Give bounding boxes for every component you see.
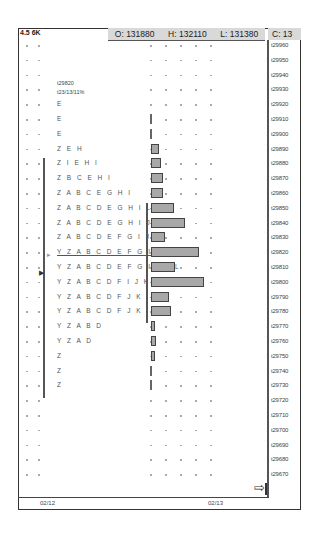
grid-dot <box>210 45 212 47</box>
grid-dot <box>195 104 197 106</box>
grid-dot <box>26 267 28 269</box>
volume-bar <box>151 351 155 361</box>
close-marker-icon: ▶ <box>39 269 44 277</box>
grid-dot <box>195 326 197 328</box>
profile-stats-label: t23/13/11% <box>57 89 84 95</box>
grid-dot <box>165 341 167 343</box>
grid-dot <box>210 237 212 239</box>
grid-dot <box>26 341 28 343</box>
grid-dot <box>165 326 167 328</box>
grid-dot <box>38 445 40 447</box>
grid-dot <box>38 89 40 91</box>
grid-dot <box>26 311 28 313</box>
grid-dot <box>165 385 167 387</box>
grid-dot <box>195 75 197 77</box>
grid-dot <box>195 223 197 225</box>
date-label: 02/13 <box>208 500 223 506</box>
grid-dot <box>38 474 40 476</box>
tpo-row: Z <box>57 367 63 374</box>
price-tick-label: t29690 <box>271 442 288 448</box>
low-value: L: 131380 <box>220 29 258 39</box>
grid-dot <box>26 297 28 299</box>
date-label: 02/12 <box>40 500 55 506</box>
grid-dot <box>195 400 197 402</box>
grid-dot <box>195 163 197 165</box>
grid-dot <box>210 311 212 313</box>
volume-bar <box>151 232 165 242</box>
grid-dot <box>165 178 167 180</box>
tpo-row: Z A B C E G H I <box>57 189 132 196</box>
grid-dot <box>195 45 197 47</box>
time-axis-line <box>18 497 269 498</box>
tpo-row: E <box>57 100 63 107</box>
grid-dot <box>38 193 40 195</box>
grid-dot <box>165 400 167 402</box>
grid-dot <box>26 223 28 225</box>
price-tick-label: t29830 <box>271 234 288 240</box>
price-tick-label: t29670 <box>271 471 288 477</box>
grid-dot <box>195 297 197 299</box>
price-tick-label: t29770 <box>271 323 288 329</box>
grid-dot <box>38 400 40 402</box>
volume-bar <box>151 173 163 183</box>
grid-dot <box>195 267 197 269</box>
value-area-line <box>43 158 45 398</box>
grid-dot <box>150 104 152 106</box>
grid-dot <box>38 252 40 254</box>
grid-dot <box>38 149 40 151</box>
price-tick-label: t29740 <box>271 368 288 374</box>
price-tick-label: t29900 <box>271 131 288 137</box>
grid-dot <box>165 474 167 476</box>
ohlc-header: O: 131880 H: 132110 L: 131380 <box>108 28 265 41</box>
volume-bar <box>151 292 169 302</box>
grid-dot <box>38 385 40 387</box>
tpo-row: Z A B C D E F G I J L <box>57 233 160 240</box>
grid-dot <box>210 400 212 402</box>
grid-dot <box>180 149 182 151</box>
volume-bar <box>151 158 161 168</box>
grid-dot <box>195 89 197 91</box>
price-tick-label: t29810 <box>271 264 288 270</box>
tpo-row: Z <box>57 352 63 359</box>
grid-dot <box>38 459 40 461</box>
grid-dot <box>26 89 28 91</box>
price-tick-label: t29880 <box>271 160 288 166</box>
grid-dot <box>150 474 152 476</box>
grid-dot <box>210 267 212 269</box>
grid-dot <box>195 474 197 476</box>
grid-dot <box>180 415 182 417</box>
grid-dot <box>38 119 40 121</box>
price-tick-label: t29700 <box>271 427 288 433</box>
price-tick-label: t29950 <box>271 57 288 63</box>
scroll-right-icon[interactable]: ⇨ <box>254 481 267 495</box>
tpo-row: Y Z A B C D F J K <box>57 293 143 300</box>
grid-dot <box>210 75 212 77</box>
volume-bar <box>151 188 163 198</box>
grid-dot <box>210 326 212 328</box>
grid-dot <box>150 415 152 417</box>
volume-bar <box>150 380 152 390</box>
grid-dot <box>38 104 40 106</box>
grid-dot <box>26 415 28 417</box>
close-value: C: 13 <box>268 28 301 40</box>
grid-dot <box>165 237 167 239</box>
grid-dot <box>210 163 212 165</box>
grid-dot <box>38 45 40 47</box>
price-tick-label: t29960 <box>271 42 288 48</box>
volume-bar <box>151 218 185 228</box>
grid-dot <box>210 89 212 91</box>
grid-dot <box>165 104 167 106</box>
grid-dot <box>38 371 40 373</box>
grid-dot <box>150 445 152 447</box>
grid-dot <box>38 223 40 225</box>
grid-dot <box>150 400 152 402</box>
high-value: H: 132110 <box>168 29 207 39</box>
tpo-row: Z I E H I <box>57 159 99 166</box>
tpo-row: E <box>57 115 63 122</box>
price-tick-label: t29890 <box>271 146 288 152</box>
volume-bar <box>151 144 159 154</box>
grid-dot <box>210 445 212 447</box>
grid-dot <box>180 178 182 180</box>
price-tick-label: t29840 <box>271 220 288 226</box>
grid-dot <box>180 400 182 402</box>
